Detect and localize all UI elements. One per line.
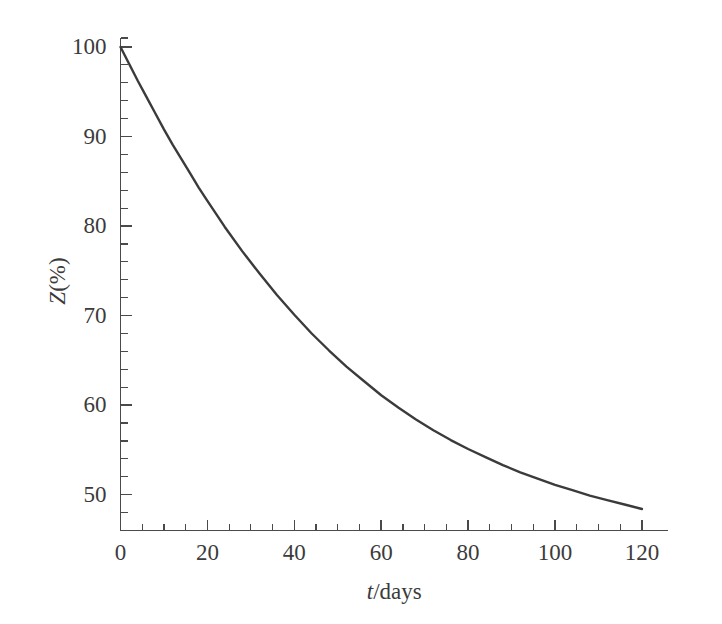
x-tick-label: 120 bbox=[625, 540, 660, 566]
y-tick-label: 100 bbox=[72, 34, 107, 60]
y-tick-label: 60 bbox=[84, 392, 107, 418]
series-z-line bbox=[121, 47, 642, 509]
y-tick-label: 90 bbox=[84, 124, 107, 150]
data-curve bbox=[121, 47, 642, 509]
y-tick-label: 80 bbox=[84, 213, 107, 239]
y-axis-title-unit: (%) bbox=[45, 258, 70, 292]
axes bbox=[121, 38, 669, 531]
y-axis-title-variable: Z bbox=[45, 292, 70, 305]
y-axis-title: Z(%) bbox=[45, 258, 71, 305]
y-tick-label: 70 bbox=[84, 303, 107, 329]
x-tick-label: 80 bbox=[457, 540, 480, 566]
x-tick-label: 0 bbox=[115, 540, 127, 566]
x-axis-title: t/days bbox=[367, 579, 422, 605]
chart-figure: 5060708090100 020406080100120 t/days Z(%… bbox=[0, 0, 722, 624]
y-tick-label: 50 bbox=[84, 482, 107, 508]
x-tick-label: 20 bbox=[196, 540, 219, 566]
x-tick-label: 60 bbox=[370, 540, 393, 566]
x-tick-label: 100 bbox=[538, 540, 573, 566]
x-axis-title-unit: /days bbox=[373, 579, 422, 604]
plot-area bbox=[0, 0, 722, 624]
x-tick-label: 40 bbox=[283, 540, 306, 566]
